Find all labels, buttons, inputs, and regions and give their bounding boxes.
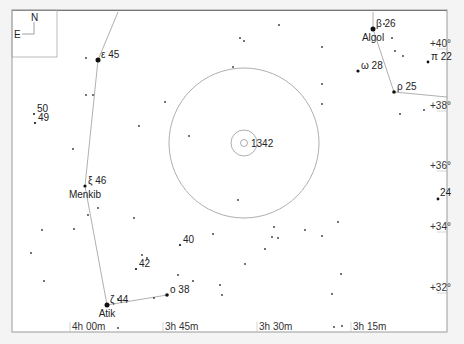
star bbox=[96, 58, 101, 63]
field-star bbox=[304, 229, 306, 231]
star-label: ξ 46 bbox=[88, 175, 107, 187]
field-star bbox=[41, 229, 43, 231]
star-label: 49 bbox=[38, 112, 50, 123]
star bbox=[371, 27, 376, 32]
field-star bbox=[243, 40, 245, 42]
field-star bbox=[394, 50, 396, 52]
star-name: Algol bbox=[362, 32, 384, 43]
dec-tick-label: +32° bbox=[430, 282, 451, 293]
field-star bbox=[399, 113, 401, 115]
star-label: 24 bbox=[440, 187, 452, 198]
target-label: 1342 bbox=[251, 138, 274, 149]
ra-tick-label: 3h 30m bbox=[259, 321, 292, 332]
star bbox=[83, 184, 86, 187]
ra-tick-label: 3h 45m bbox=[165, 321, 198, 332]
field-star bbox=[321, 46, 323, 48]
star-label: ω 28 bbox=[361, 60, 383, 71]
star bbox=[33, 113, 35, 115]
dec-tick-label: +36° bbox=[430, 160, 451, 171]
field-star bbox=[192, 280, 194, 282]
field-star bbox=[321, 235, 323, 237]
field-star bbox=[133, 217, 135, 219]
target-object: 1342 bbox=[251, 138, 274, 149]
dec-tick-label: +38° bbox=[430, 100, 451, 111]
field-star bbox=[30, 252, 32, 254]
field-star bbox=[73, 228, 75, 230]
ra-tick-label: 4h 00m bbox=[72, 321, 105, 332]
star-label: β 26 bbox=[376, 18, 396, 29]
field-star bbox=[237, 199, 239, 201]
field-star bbox=[271, 236, 273, 238]
star-label: 40 bbox=[183, 234, 195, 245]
star-chart: N E ε 45ξ 46Menkibζ 44Atikο 38β 26Algolω… bbox=[0, 0, 464, 344]
field-star bbox=[273, 226, 275, 228]
field-star bbox=[153, 297, 155, 299]
field-star bbox=[221, 294, 223, 296]
star-label: ο 38 bbox=[170, 284, 190, 295]
star-label: π 22 bbox=[431, 51, 452, 62]
field-star bbox=[138, 125, 140, 127]
field-star bbox=[423, 109, 425, 111]
field-star bbox=[402, 55, 404, 57]
field-star bbox=[341, 325, 343, 327]
star bbox=[34, 122, 36, 124]
field-star bbox=[188, 135, 190, 137]
star-label: ε 45 bbox=[101, 49, 120, 60]
field-star bbox=[92, 94, 94, 96]
star-name: Atik bbox=[99, 308, 117, 319]
star bbox=[165, 293, 169, 297]
star-label: 42 bbox=[139, 258, 151, 269]
field-star bbox=[85, 94, 87, 96]
field-star bbox=[72, 148, 74, 150]
field-star bbox=[43, 280, 45, 282]
field-star bbox=[232, 66, 234, 68]
star bbox=[356, 69, 359, 72]
star-label: ρ 25 bbox=[397, 81, 417, 92]
field-star bbox=[117, 327, 119, 329]
chart-frame bbox=[12, 10, 447, 332]
field-star bbox=[244, 263, 246, 265]
field-star bbox=[177, 274, 179, 276]
field-star bbox=[85, 57, 87, 59]
field-star bbox=[277, 237, 279, 239]
star bbox=[437, 198, 440, 201]
field-star bbox=[391, 37, 393, 39]
field-star bbox=[333, 326, 335, 328]
field-star bbox=[264, 248, 266, 250]
field-star bbox=[219, 284, 221, 286]
field-star bbox=[337, 221, 339, 223]
star-name: Menkib bbox=[69, 189, 102, 200]
field-star bbox=[321, 103, 323, 105]
ra-tick-label: 3h 15m bbox=[353, 321, 386, 332]
star bbox=[179, 244, 181, 246]
field-star bbox=[340, 273, 342, 275]
star bbox=[427, 61, 430, 64]
star bbox=[392, 90, 396, 94]
compass-north-label: N bbox=[31, 12, 38, 23]
field-star bbox=[278, 24, 280, 26]
star bbox=[105, 303, 110, 308]
field-star bbox=[331, 293, 333, 295]
compass-east-label: E bbox=[14, 29, 21, 40]
field-star bbox=[212, 233, 214, 235]
field-star bbox=[141, 254, 143, 256]
field-star bbox=[321, 83, 323, 85]
field-star bbox=[97, 207, 99, 209]
dec-tick-label: +34° bbox=[430, 221, 451, 232]
dec-tick-label: +40° bbox=[430, 38, 451, 49]
star-label: ζ 44 bbox=[110, 294, 129, 306]
star bbox=[135, 268, 137, 270]
field-star bbox=[239, 37, 241, 39]
field-star bbox=[164, 101, 166, 103]
field-star bbox=[87, 214, 89, 216]
